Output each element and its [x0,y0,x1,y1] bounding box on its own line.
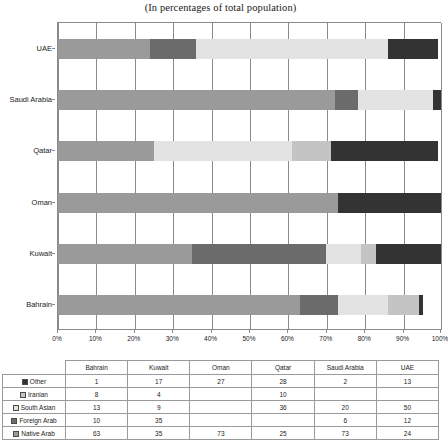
value-tick [134,330,135,333]
bar-segment [300,295,338,315]
table-cell: 10 [252,388,314,401]
bar-segment [58,39,150,59]
table-cell [190,401,252,414]
table-row: Foreign Arab1035612 [3,414,439,427]
bar-segment [292,141,330,161]
legend-swatch-icon [13,405,19,411]
bar-row [58,39,441,59]
table-cell: 10 [66,414,128,427]
value-tick [172,330,173,333]
chart-title: (In percentages of total population) [0,2,441,13]
bar-segment [338,295,388,315]
category-label-oman: Oman [32,197,52,206]
value-tick [57,330,58,333]
table-cell: 9 [128,401,190,414]
table-header-row: BahrainKuwaitOmanQatarSaudi ArabiaUAE [3,361,439,375]
value-tick-label: 70% [319,335,332,342]
table-cell: 73 [314,427,376,440]
value-tick-label: 30% [166,335,179,342]
table-cell [252,414,314,427]
table-cell: 36 [252,401,314,414]
bar-segment [58,90,335,110]
legend-swatch-icon [20,392,26,398]
table-cell: 35 [128,414,190,427]
value-tick-label: 40% [204,335,217,342]
table-column-header: Qatar [252,361,314,375]
category-tick [52,150,55,151]
table-cell [314,388,376,401]
table-cell: 35 [128,427,190,440]
value-tick-label: 0% [52,335,61,342]
bar-segment [150,39,196,59]
value-tick [326,330,327,333]
gridline [441,23,442,330]
legend-swatch-icon [11,418,17,424]
bar-segment [58,295,300,315]
table-cell: 25 [252,427,314,440]
table-cell: 12 [376,414,438,427]
bar-segment [335,90,358,110]
legend-label: Iranian [28,391,48,398]
legend-entry: Other [3,375,66,388]
category-label-qatar: Qatar [33,146,52,155]
value-tick [287,330,288,333]
legend-swatch-icon [22,379,28,385]
bar-row [58,90,441,110]
value-tick-label: 50% [242,335,255,342]
bar-segment [361,244,376,264]
category-tick [52,304,55,305]
category-axis: UAESaudi ArabiaQatarOmanKuwaitBahrain [0,22,55,330]
bar-row [58,244,441,264]
value-tick-label: 90% [396,335,409,342]
legend-swatch-icon [13,431,19,437]
value-tick [403,330,404,333]
bar-segment [58,193,338,213]
table-cell: 63 [66,427,128,440]
bar-row [58,295,441,315]
table-column-header: Kuwait [128,361,190,375]
table-column-header: Bahrain [66,361,128,375]
value-tick [249,330,250,333]
value-tick [211,330,212,333]
table-cell: 73 [190,427,252,440]
value-axis: 0%10%20%30%40%50%60%70%80%90%100% [57,330,441,350]
table-cell: 2 [314,375,376,388]
bar-segment [433,90,441,110]
table-column-header: Saudi Arabia [314,361,376,375]
value-tick-label: 100% [432,335,448,342]
table-column-header: Oman [190,361,252,375]
bar-segment [388,39,438,59]
bar-segment [358,90,434,110]
category-label-saudi-arabia: Saudi Arabia [9,95,52,104]
table-column-header: UAE [376,361,438,375]
bar-rows [58,23,441,330]
bar-segment [419,295,423,315]
bar-segment [376,244,441,264]
table-row: Other1172728213 [3,375,439,388]
table-row: South Asian139362050 [3,401,439,414]
bar-segment [326,244,360,264]
table-cell: 8 [66,388,128,401]
table-cell: 24 [376,427,438,440]
table-cell: 50 [376,401,438,414]
bar-segment [192,244,326,264]
bar-segment [58,141,154,161]
legend-label: South Asian [21,404,56,411]
table-cell: 13 [66,401,128,414]
value-tick [95,330,96,333]
table-cell [190,388,252,401]
table-cell: 20 [314,401,376,414]
legend-label: Other [30,378,46,385]
table-corner [3,361,66,375]
bar-segment [58,244,192,264]
bar-segment [196,39,388,59]
table-row: Native Arab633573257324 [3,427,439,440]
table-body: Other1172728213Iranian8410South Asian139… [3,375,439,440]
table-cell: 4 [128,388,190,401]
legend-entry: Foreign Arab [3,414,66,427]
value-tick-label: 80% [358,335,371,342]
legend-label: Foreign Arab [19,417,56,424]
table-cell [190,414,252,427]
data-table: BahrainKuwaitOmanQatarSaudi ArabiaUAE Ot… [2,360,439,440]
